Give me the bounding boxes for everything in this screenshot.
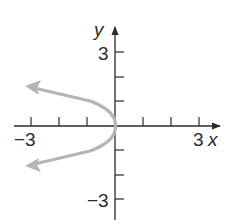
graph: y 3 −3 −3 3 x <box>0 0 233 224</box>
y-axis-label: y <box>92 19 105 40</box>
x-min-label: −3 <box>14 129 36 150</box>
x-max-label: 3 <box>193 129 204 150</box>
y-min-label: −3 <box>87 190 109 211</box>
x-axis-label: x <box>207 129 219 150</box>
y-max-label: 3 <box>98 43 109 64</box>
curve-arrow-lower-icon <box>25 158 41 172</box>
